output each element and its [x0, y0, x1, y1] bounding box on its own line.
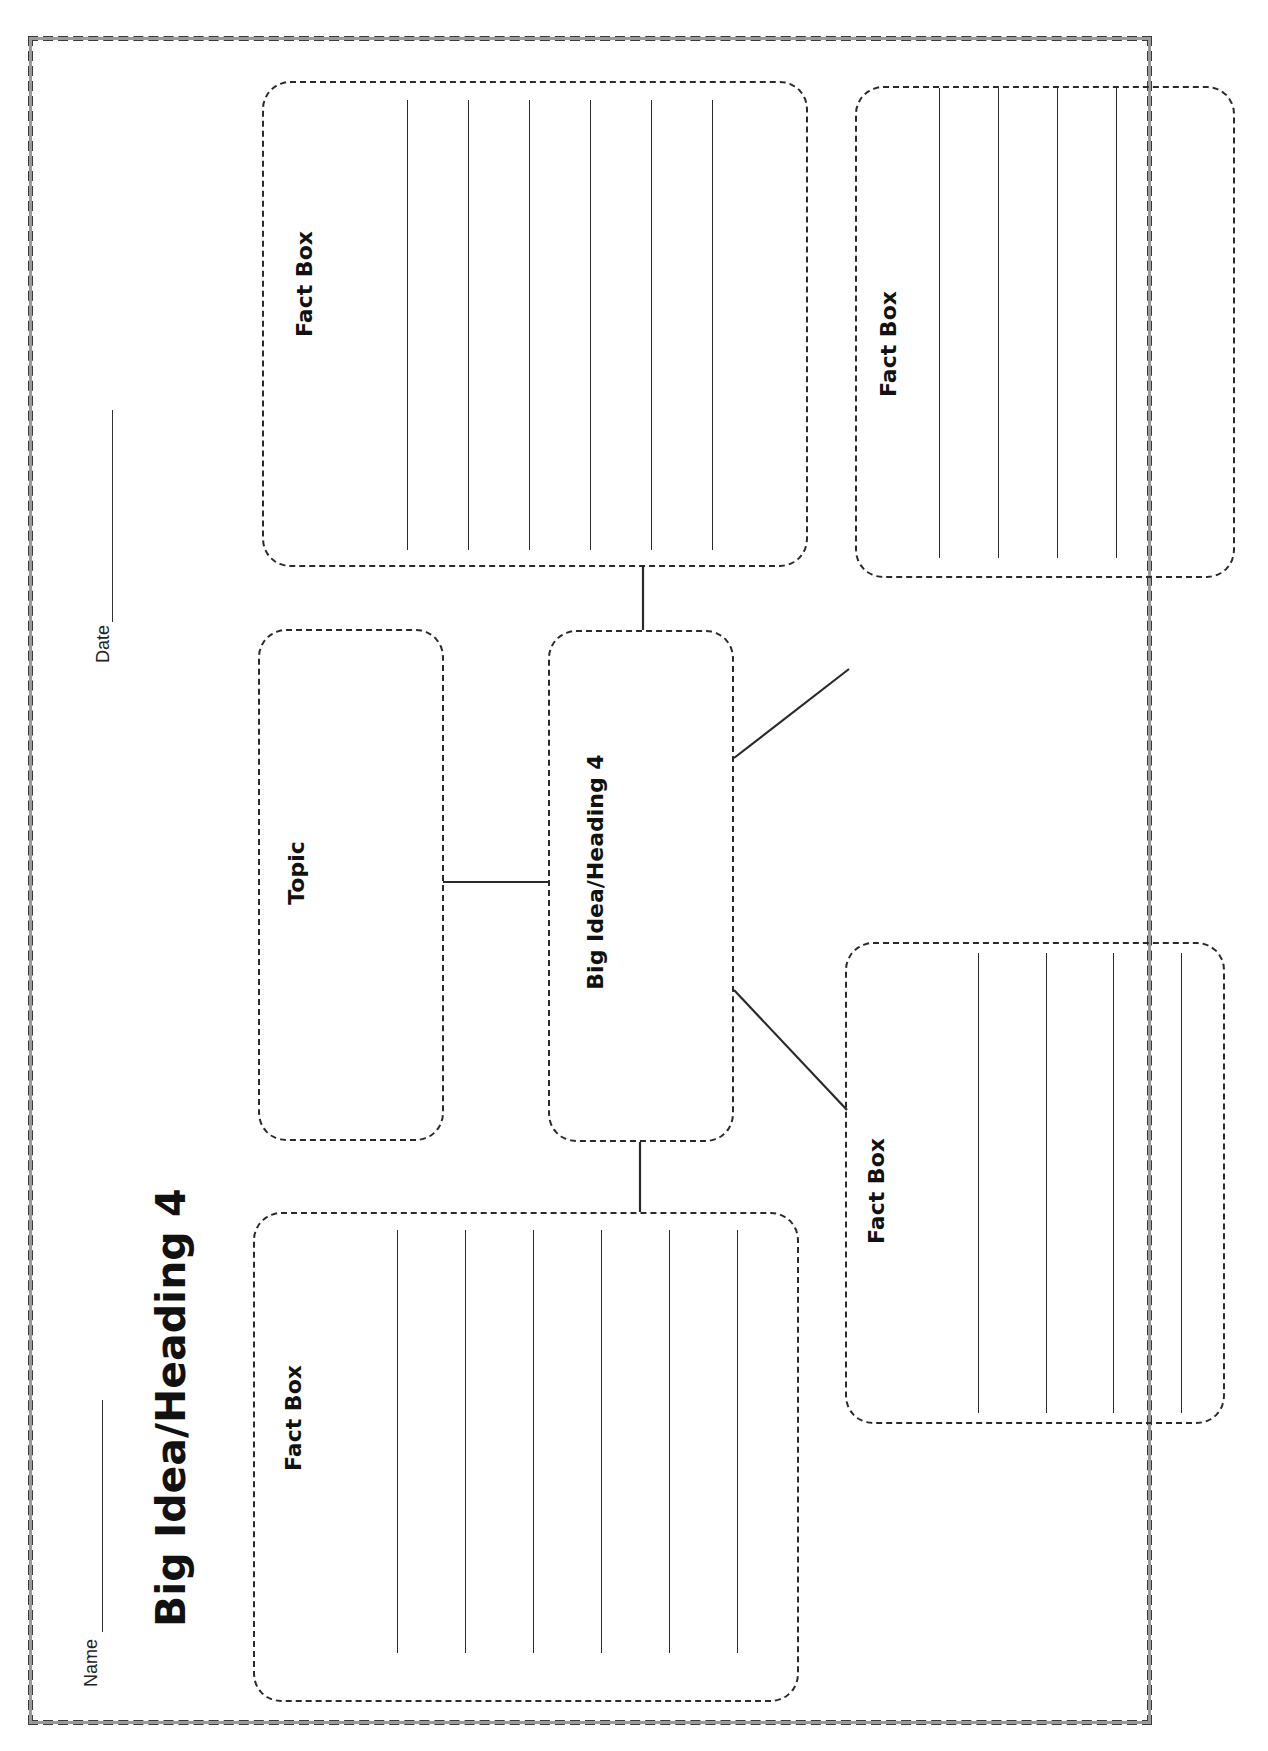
name-field[interactable]: [102, 1400, 103, 1632]
name-label: Name: [81, 1633, 103, 1693]
writing-line: [939, 88, 940, 558]
fact-box-top-left[interactable]: Fact Box: [262, 81, 808, 567]
fact-box-top-right[interactable]: [855, 86, 1235, 578]
date-field[interactable]: [112, 410, 113, 622]
fact-box-label: Fact Box: [281, 1348, 309, 1488]
fact-box-bottom-left[interactable]: Fact Box: [253, 1212, 799, 1702]
page-title: Big Idea/Heading 4: [147, 1247, 197, 1627]
topic-box[interactable]: Topic: [258, 629, 444, 1141]
writing-line: [590, 100, 591, 550]
writing-line: [1057, 88, 1058, 558]
topic-label: Topic: [284, 833, 312, 913]
writing-line: [468, 100, 469, 550]
writing-line: [397, 1230, 398, 1653]
fact-box-label: Fact Box: [292, 214, 320, 354]
central-big-idea-box[interactable]: Big Idea/Heading 4: [548, 630, 734, 1142]
date-label: Date: [93, 620, 115, 668]
writing-line: [533, 1230, 534, 1653]
writing-line: [651, 100, 652, 550]
writing-line: [712, 100, 713, 550]
writing-line: [998, 88, 999, 558]
writing-line: [529, 100, 530, 550]
writing-line: [407, 100, 408, 550]
central-big-idea-label: Big Idea/Heading 4: [583, 742, 611, 1002]
writing-line: [1046, 953, 1047, 1413]
fact-box-label: Fact Box: [864, 1121, 892, 1261]
fact-box-bottom-right[interactable]: [845, 942, 1225, 1424]
writing-line: [1116, 88, 1117, 558]
fact-box-label: Fact Box: [876, 274, 904, 414]
writing-line: [978, 953, 979, 1413]
writing-line: [669, 1230, 670, 1653]
writing-line: [465, 1230, 466, 1653]
writing-line: [1181, 953, 1182, 1413]
writing-line: [1113, 953, 1114, 1413]
writing-line: [737, 1230, 738, 1653]
writing-line: [601, 1230, 602, 1653]
